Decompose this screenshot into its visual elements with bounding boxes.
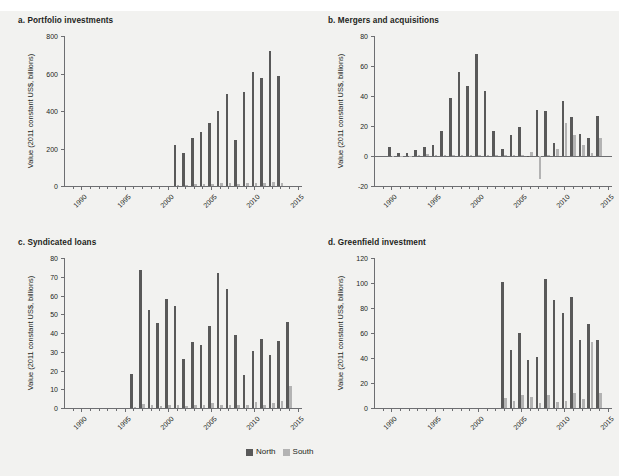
bar-south-2010	[565, 401, 568, 408]
x-tick-mark-minor	[582, 186, 583, 189]
y-tick-mark	[371, 308, 374, 309]
bar-north-2013	[587, 324, 590, 408]
panel-syndicated-loans: c. Syndicated loans Value (2011 constant…	[18, 238, 310, 450]
x-tick-mark-minor	[142, 408, 143, 411]
bar-north-2003	[191, 342, 194, 408]
page-header-strip	[0, 0, 619, 11]
bar-south-2006	[220, 405, 223, 408]
y-tick-label: 10	[28, 386, 58, 393]
x-tick-mark-minor	[280, 186, 281, 189]
x-tick-label: 2010	[239, 415, 261, 437]
x-axis-line	[64, 186, 302, 187]
panel-d-title: d. Greenfield investment	[328, 238, 426, 247]
bar-south-1996	[444, 155, 447, 156]
x-tick-mark-minor	[116, 408, 117, 411]
y-tick-mark	[61, 277, 64, 278]
bar-south-1996	[134, 407, 137, 408]
bar-north-2004	[510, 350, 513, 408]
bar-north-2008	[544, 279, 547, 408]
y-tick-mark	[61, 74, 64, 75]
bar-north-2010	[562, 313, 565, 408]
x-tick-mark-minor	[280, 408, 281, 411]
bar-south-2002	[185, 185, 188, 186]
x-tick-mark-minor	[194, 186, 195, 189]
bar-south-2002	[185, 406, 188, 408]
bar-north-2007	[226, 289, 229, 408]
x-tick-mark-minor	[461, 186, 462, 189]
bar-south-2005	[521, 395, 524, 408]
y-tick-mark	[61, 296, 64, 297]
panel-c-plot-area: 0102030405060708019901995200020052010201…	[64, 258, 302, 408]
bar-north-1998	[458, 72, 461, 156]
panel-greenfield-investment: d. Greenfield investment Value (2011 con…	[328, 238, 619, 450]
panel-mergers-acquisitions: b. Mergers and acquisitions Value (2011 …	[328, 16, 619, 228]
x-tick-mark-minor	[547, 186, 548, 189]
bar-south-2008	[237, 184, 240, 186]
x-tick-mark-major	[564, 408, 565, 412]
x-tick-mark-major	[478, 408, 479, 412]
bar-south-2012	[272, 403, 275, 408]
bar-north-1996	[130, 374, 133, 409]
bar-south-1997	[452, 155, 455, 156]
x-tick-mark-minor	[530, 186, 531, 189]
bar-north-1992	[406, 153, 409, 156]
x-tick-mark-minor	[400, 186, 401, 189]
bar-south-1998	[461, 155, 464, 156]
y-tick-label: 30	[28, 348, 58, 355]
bar-south-2010	[255, 183, 258, 186]
x-tick-mark-minor	[272, 408, 273, 411]
x-tick-mark-major	[168, 408, 169, 412]
bar-north-2005	[208, 123, 211, 186]
x-tick-mark-minor	[504, 408, 505, 411]
x-tick-mark-minor	[151, 186, 152, 189]
bar-north-2003	[501, 149, 504, 156]
bar-south-2008	[547, 155, 550, 157]
y-tick-mark	[61, 258, 64, 259]
y-tick-mark	[371, 383, 374, 384]
panel-a-plot-area: 0200400600800199019952000200520102015	[64, 36, 302, 186]
x-tick-mark-minor	[202, 408, 203, 411]
bar-south-2004	[203, 405, 206, 408]
x-tick-label: 1995	[110, 193, 132, 215]
bar-south-2003	[194, 184, 197, 186]
y-tick-label: 100	[338, 280, 368, 287]
bar-south-2003	[504, 398, 507, 409]
x-tick-mark-minor	[289, 186, 290, 189]
bar-south-2000	[478, 155, 481, 156]
x-tick-label: 1990	[66, 193, 88, 215]
y-tick-mark	[371, 408, 374, 409]
bar-south-2003	[194, 405, 197, 408]
bar-north-2003	[501, 282, 504, 409]
y-tick-label: 0	[28, 183, 58, 190]
bar-north-2005	[518, 127, 521, 156]
bar-north-1993	[414, 150, 417, 156]
bar-south-1999	[470, 155, 473, 157]
x-tick-mark-minor	[202, 186, 203, 189]
x-tick-label: 2015	[283, 415, 305, 437]
y-tick-label: 800	[28, 33, 58, 40]
x-tick-label: 2005	[506, 193, 528, 215]
y-tick-label: 0	[28, 405, 58, 412]
x-axis-line	[374, 408, 612, 409]
x-tick-mark-major	[211, 408, 212, 412]
x-tick-mark-minor	[409, 186, 410, 189]
bar-north-2011	[570, 117, 573, 156]
figure-container: a. Portfolio investments Value (2011 con…	[0, 0, 619, 476]
bar-south-2011	[573, 135, 576, 156]
panel-d-plot-area: 020406080100120199019952000200520102015	[374, 258, 612, 408]
legend-item-north: North	[246, 448, 276, 456]
bar-north-2004	[510, 135, 513, 156]
x-tick-mark-minor	[599, 186, 600, 189]
bar-south-2004	[513, 155, 516, 156]
y-tick-mark	[371, 96, 374, 97]
bar-north-2011	[570, 297, 573, 408]
x-tick-mark-minor	[547, 408, 548, 411]
bar-north-2014	[286, 322, 289, 408]
x-tick-mark-major	[211, 186, 212, 190]
y-tick-mark	[371, 186, 374, 187]
x-tick-mark-major	[81, 186, 82, 190]
bar-south-2002	[495, 155, 498, 156]
x-tick-mark-major	[125, 186, 126, 190]
bar-north-2009	[243, 92, 246, 186]
bar-south-2007	[539, 403, 542, 408]
